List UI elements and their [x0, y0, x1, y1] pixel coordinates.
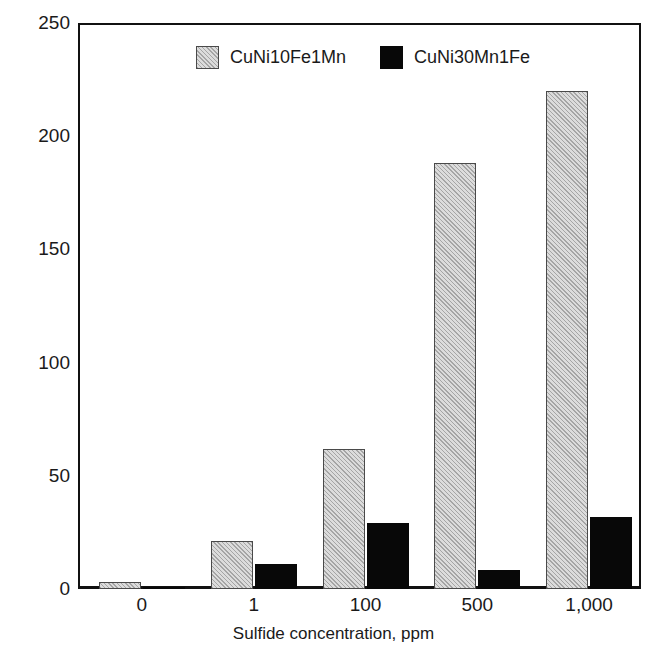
- bar-1-CuNi30Mn1Fe: [255, 564, 297, 589]
- legend-label-series-b: CuNi30Mn1Fe: [414, 47, 530, 68]
- bar-100-CuNi10Fe1Mn: [323, 449, 365, 589]
- solid-black-swatch-icon: [380, 46, 403, 69]
- bar-1000-CuNi30Mn1Fe: [590, 517, 632, 589]
- y-tick-label: 200: [24, 125, 70, 147]
- x-tick-label: 500: [461, 594, 493, 616]
- bar-100-CuNi30Mn1Fe: [367, 523, 409, 589]
- legend-entry-series-a: CuNi10Fe1Mn: [196, 46, 346, 69]
- y-tick-label: 0: [24, 578, 70, 600]
- y-tick-label: 50: [24, 465, 70, 487]
- y-tick-label: 100: [24, 352, 70, 374]
- legend-label-series-a: CuNi10Fe1Mn: [230, 47, 346, 68]
- bar-0-CuNi30Mn1Fe: [143, 587, 185, 589]
- x-tick-label: 100: [350, 594, 382, 616]
- x-axis-title: Sulfide concentration, ppm: [0, 624, 667, 644]
- y-tick-label: 150: [24, 238, 70, 260]
- chart-legend: CuNi10Fe1Mn CuNi30Mn1Fe: [196, 46, 530, 69]
- chart-container: Corrosion rate, mm/a 050100150200250 CuN…: [0, 0, 667, 655]
- x-tick-label: 1,000: [565, 594, 613, 616]
- bar-0-CuNi10Fe1Mn: [99, 582, 141, 589]
- x-tick-label: 1: [248, 594, 259, 616]
- hatched-gray-swatch-icon: [196, 46, 219, 69]
- y-tick-label: 250: [24, 12, 70, 34]
- bar-1000-CuNi10Fe1Mn: [546, 91, 588, 589]
- bar-1-CuNi10Fe1Mn: [211, 541, 253, 589]
- bars-layer: [80, 25, 639, 589]
- bar-500-CuNi10Fe1Mn: [434, 163, 476, 589]
- x-tick-label: 0: [137, 594, 148, 616]
- y-axis-ticks: 050100150200250: [20, 0, 70, 655]
- x-axis-ticks: 011005001,000: [78, 594, 641, 622]
- bar-500-CuNi30Mn1Fe: [478, 570, 520, 589]
- legend-entry-series-b: CuNi30Mn1Fe: [380, 46, 530, 69]
